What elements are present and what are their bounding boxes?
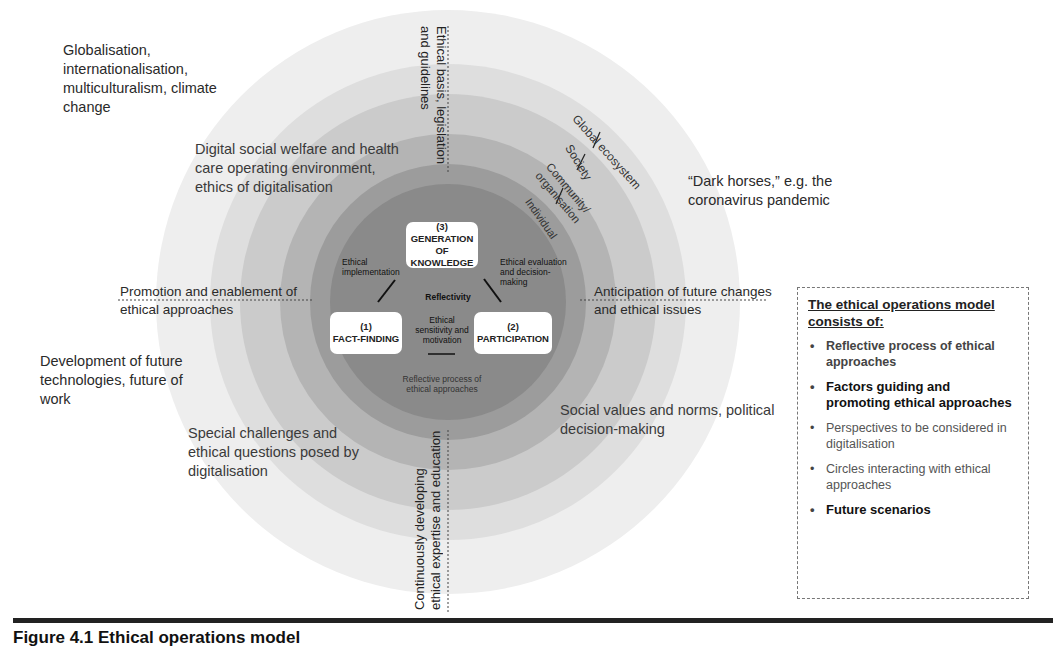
label-ethical-implementation: Ethical implementation xyxy=(342,257,404,277)
box-generation-of-knowledge: (3) GENERATION OF KNOWLEDGE xyxy=(406,222,478,268)
legend-box: The ethical operations model consists of… xyxy=(797,287,1029,599)
label-reflectivity: Reflectivity xyxy=(418,292,478,302)
box-fact-finding-label: FACT-FINDING xyxy=(333,333,400,345)
legend-item: Circles interacting with ethical approac… xyxy=(808,461,1018,493)
label-globalisation: Globalisation, internationalisation, mul… xyxy=(63,41,263,117)
legend-title: The ethical operations model consists of… xyxy=(808,296,1018,330)
label-ethical-sensitivity: Ethical sensitivity and motivation xyxy=(410,315,474,345)
legend-list: Reflective process of ethical approaches… xyxy=(808,338,1018,518)
box-fact-finding-number: (1) xyxy=(360,321,372,333)
label-ethical-basis: Ethical basis, legislation and guideline… xyxy=(413,26,449,181)
divider-rule xyxy=(13,618,1053,623)
legend-item: Perspectives to be considered in digital… xyxy=(808,420,1018,452)
legend-item: Reflective process of ethical approaches xyxy=(808,338,1018,370)
label-dark-horses: “Dark horses,” e.g. the coronavirus pand… xyxy=(688,172,868,210)
label-special-challenges: Special challenges and ethical questions… xyxy=(188,424,383,481)
label-future-technologies: Development of future technologies, futu… xyxy=(40,352,215,409)
label-digital-welfare: Digital social welfare and health care o… xyxy=(195,140,405,197)
box-fact-finding: (1) FACT-FINDING xyxy=(330,312,402,354)
box-participation: (2) PARTICIPATION xyxy=(474,312,552,354)
label-continuously-developing: Continuously developing ethical expertis… xyxy=(412,430,460,610)
label-promotion: Promotion and enablement of ethical appr… xyxy=(120,283,305,319)
box-participation-label: PARTICIPATION xyxy=(477,333,549,345)
label-social-values: Social values and norms, political decis… xyxy=(560,401,775,439)
label-ethical-evaluation: Ethical evaluation and decision-making xyxy=(500,257,568,287)
label-anticipation: Anticipation of future changes and ethic… xyxy=(594,283,774,319)
figure-caption: Figure 4.1 Ethical operations model xyxy=(13,628,300,648)
legend-item: Future scenarios xyxy=(808,502,1018,518)
legend-item: Factors guiding and promoting ethical ap… xyxy=(808,379,1018,411)
box-participation-number: (2) xyxy=(507,321,519,333)
box-generation-label: (3) GENERATION OF KNOWLEDGE xyxy=(406,221,478,269)
label-reflective-process: Reflective process of ethical approaches xyxy=(390,374,494,394)
